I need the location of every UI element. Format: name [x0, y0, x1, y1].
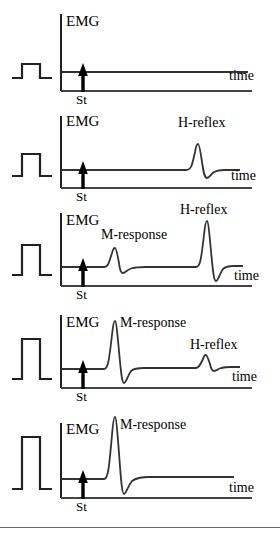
emg-panel-1: EMG time St [0, 0, 280, 104]
h-reflex-waveform-2 [61, 144, 240, 178]
emg-label-1: EMG [66, 14, 99, 29]
emg-panel-5: EMG M-response time St [0, 401, 280, 513]
stimulus-pulse-3 [12, 245, 52, 275]
emg-trace-svg-3 [0, 199, 280, 299]
h-reflex-label-4: H-reflex [190, 338, 237, 352]
stimulus-arrow-1 [78, 63, 88, 92]
m-response-label-5: M-response [120, 418, 186, 432]
m-response-label-4: M-response [120, 316, 186, 330]
time-label-4: time [232, 370, 257, 384]
stimulus-pulse-5 [12, 437, 52, 489]
h-reflex-label-3: H-reflex [180, 203, 227, 217]
stimulus-arrow-5 [78, 470, 88, 499]
time-label-2: time [231, 169, 256, 183]
emg-label-5: EMG [66, 422, 99, 437]
emg-recruitment-figure: EMG time St EMG H-reflex time St [0, 0, 280, 534]
stimulus-arrow-4 [78, 360, 88, 389]
emg-panel-4: EMG M-response H-reflex time St [0, 299, 280, 401]
stimulus-pulse-2 [12, 154, 52, 176]
emg-panel-2: EMG H-reflex time St [0, 104, 280, 199]
emg-trace-svg-1 [0, 0, 280, 104]
time-label-3: time [234, 269, 259, 283]
m-and-h-waveform-4 [61, 321, 240, 383]
emg-label-4: EMG [66, 315, 99, 330]
emg-panel-3: EMG M-response H-reflex time St [0, 199, 280, 299]
time-label-1: time [229, 69, 254, 83]
emg-label-2: EMG [66, 114, 99, 129]
stimulus-pulse-4 [12, 339, 52, 379]
m-response-label-3: M-response [101, 228, 167, 242]
stimulus-pulse-1 [12, 64, 52, 78]
bottom-divider [0, 527, 280, 528]
time-label-5: time [229, 481, 254, 495]
stimulus-arrow-2 [78, 161, 88, 189]
stimulus-label-5: St [76, 500, 87, 513]
h-reflex-label-2: H-reflex [178, 116, 225, 130]
emg-label-3: EMG [66, 213, 99, 228]
emg-trace-svg-2 [0, 104, 280, 199]
stimulus-arrow-3 [78, 258, 88, 287]
